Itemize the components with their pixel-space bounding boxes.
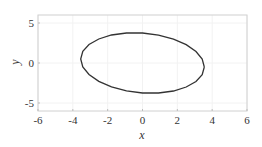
x-tick-label: -2 <box>103 114 112 126</box>
x-tick-label: -4 <box>68 114 78 126</box>
y-axis-label: y <box>8 59 22 66</box>
x-tick-label: 4 <box>209 114 215 126</box>
y-tick-label: -5 <box>25 97 35 109</box>
x-tick-label: 2 <box>175 114 181 126</box>
y-tick-label: 5 <box>29 17 35 29</box>
y-tick-label: 0 <box>29 57 35 69</box>
x-axis-ticks: -6-4-20246 <box>33 109 250 126</box>
x-tick-label: -6 <box>33 114 43 126</box>
x-tick-label: 0 <box>140 114 146 126</box>
x-axis-label: x <box>138 128 145 142</box>
grid-lines <box>38 15 247 111</box>
x-tick-label: 6 <box>244 114 250 126</box>
ellipse-plot: -6-4-20246 -505 x y <box>0 0 262 147</box>
